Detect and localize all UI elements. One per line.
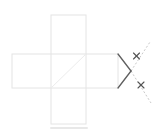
net-rect-horizontal-bar — [12, 54, 118, 88]
cube-net-rays-diagram — [0, 0, 160, 134]
dashed-ray-upper — [131, 42, 150, 71]
net-fold-diagonal — [51, 54, 86, 88]
dashed-ray-lower — [131, 71, 151, 103]
solid-ray-lower — [118, 71, 131, 88]
solid-ray-upper — [118, 54, 131, 71]
diagram-canvas — [0, 0, 160, 134]
net-shadow — [50, 127, 88, 129]
net-rect-vertical-bar — [51, 15, 86, 124]
